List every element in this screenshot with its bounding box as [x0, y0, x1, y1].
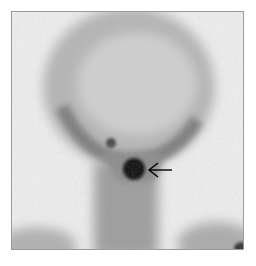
scan-image-frame: [11, 11, 244, 250]
scan-image: [12, 12, 244, 250]
